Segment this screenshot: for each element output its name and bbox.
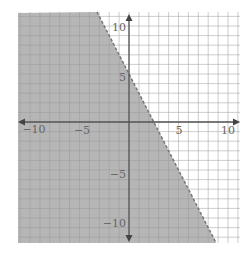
- y-tick-label: −10: [103, 217, 126, 230]
- y-tick-label: 5: [119, 71, 126, 84]
- y-tick-label: 10: [112, 21, 126, 34]
- y-tick-label: −5: [110, 168, 126, 181]
- y-axis-up-arrow-icon: [126, 14, 133, 21]
- x-tick-label: 10: [221, 124, 235, 137]
- x-tick-label: 5: [176, 124, 183, 137]
- inequality-graph: −10 −5 5 10 10 5 −5 −10: [0, 0, 252, 254]
- x-tick-label: −5: [74, 124, 90, 137]
- x-tick-label: −10: [22, 123, 45, 136]
